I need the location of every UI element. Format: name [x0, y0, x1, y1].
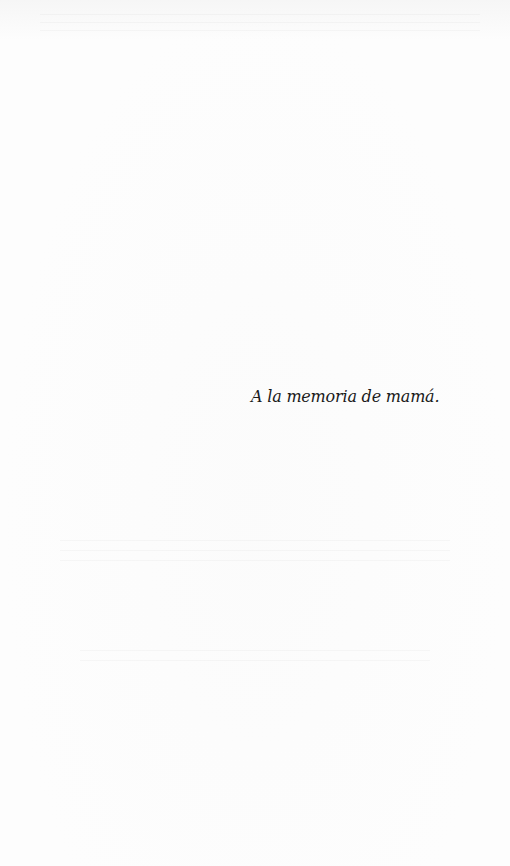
- show-through-line: [40, 14, 480, 15]
- show-through-line: [40, 30, 480, 31]
- show-through-line: [60, 560, 450, 561]
- show-through-line: [40, 22, 480, 23]
- show-through-line: [80, 660, 430, 661]
- book-page: A la memoria de mamá.: [0, 0, 510, 866]
- show-through-line: [60, 550, 450, 551]
- show-through-line: [80, 650, 430, 651]
- dedication-text: A la memoria de mamá.: [251, 386, 439, 408]
- show-through-line: [60, 540, 450, 541]
